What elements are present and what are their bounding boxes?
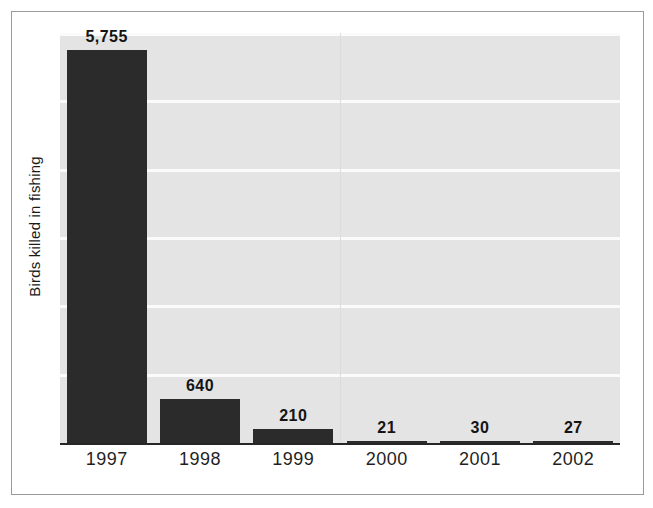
x-tick-label-2000: 2000 — [347, 449, 427, 470]
bar[interactable] — [160, 399, 240, 443]
bar-slot: 30 — [440, 33, 520, 443]
x-tick-label-1998: 1998 — [160, 449, 240, 470]
x-axis-line — [60, 443, 620, 445]
x-tick-label-2001: 2001 — [440, 449, 520, 470]
bar-value-label: 640 — [160, 377, 240, 395]
bar-value-label: 5,755 — [67, 28, 147, 46]
x-axis-tick-labels: 199719981999200020012002 — [60, 449, 620, 479]
bar-group: 5,755640210213027 — [60, 33, 620, 443]
x-tick-label-2002: 2002 — [533, 449, 613, 470]
bar[interactable] — [67, 50, 147, 443]
bar-value-label: 21 — [347, 419, 427, 437]
y-axis-title: Birds killed in fishing — [26, 107, 43, 347]
bar-slot: 5,755 — [67, 33, 147, 443]
bar-slot: 210 — [253, 33, 333, 443]
bar-value-label: 30 — [440, 419, 520, 437]
bar-value-label: 27 — [533, 419, 613, 437]
plot-area: 5,755640210213027 — [60, 33, 620, 443]
bar[interactable] — [253, 429, 333, 443]
bar-slot: 21 — [347, 33, 427, 443]
bar-value-label: 210 — [253, 407, 333, 425]
bar-slot: 640 — [160, 33, 240, 443]
x-tick-label-1999: 1999 — [253, 449, 333, 470]
bar-slot: 27 — [533, 33, 613, 443]
chart-figure: Birds killed in fishing 5,75564021021302… — [0, 0, 653, 508]
x-tick-label-1997: 1997 — [67, 449, 147, 470]
